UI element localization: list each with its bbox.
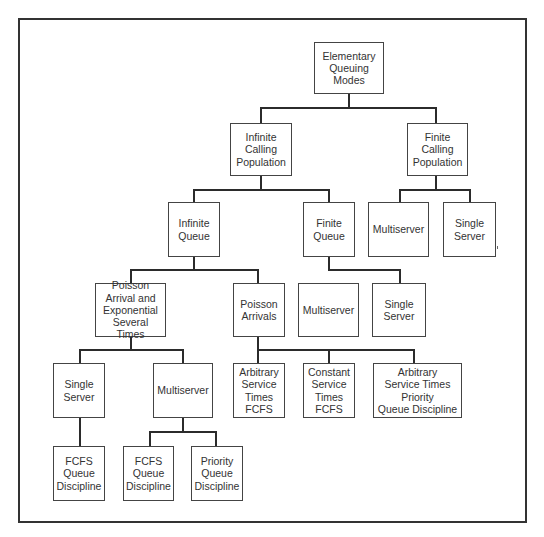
stray-mark: [497, 246, 498, 249]
node-finite-calling-population: Finite Calling Population: [407, 123, 468, 176]
node-finite-queue: Finite Queue: [303, 202, 355, 257]
node-ss-fcfs-discipline: FCFS Queue Discipline: [53, 446, 105, 501]
node-pae-single-server: Single Server: [53, 363, 105, 418]
node-fq-multiserver: Multiserver: [298, 283, 359, 337]
node-fcp-single-server: Single Server: [443, 202, 496, 257]
node-ms-fcfs-discipline: FCFS Queue Discipline: [123, 446, 174, 501]
node-pae-multiserver: Multiserver: [153, 363, 213, 418]
node-fq-single-server: Single Server: [372, 283, 426, 337]
node-poisson-arrival-exponential: Poisson Arrival and Exponential Several …: [95, 283, 166, 337]
node-arbitrary-service-priority: Arbitrary Service Times Priority Queue D…: [373, 363, 462, 418]
node-poisson-arrivals: Poisson Arrivals: [233, 283, 285, 337]
node-infinite-calling-population: Infinite Calling Population: [230, 123, 292, 176]
node-infinite-queue: Infinite Queue: [168, 202, 220, 257]
node-root: Elementary Queuing Modes: [314, 42, 384, 94]
node-ms-priority-discipline: Priority Queue Discipline: [191, 446, 243, 501]
node-fcp-multiserver: Multiserver: [368, 202, 429, 257]
node-arbitrary-service-fcfs: Arbitrary Service Times FCFS: [233, 363, 285, 418]
node-constant-service-fcfs: Constant Service Times FCFS: [303, 363, 355, 418]
